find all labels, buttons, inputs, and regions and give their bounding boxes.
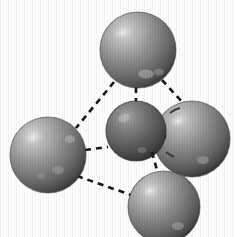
molecular-model-figure [0, 0, 235, 237]
bond-top-right [162, 80, 183, 103]
bond-left-center [85, 147, 108, 150]
atom-left [10, 117, 86, 193]
atom-top [100, 12, 176, 88]
bond-left-bottom [77, 176, 134, 196]
atom-bottom [128, 171, 200, 237]
atom-center [106, 101, 166, 161]
molecule-canvas [0, 0, 235, 237]
